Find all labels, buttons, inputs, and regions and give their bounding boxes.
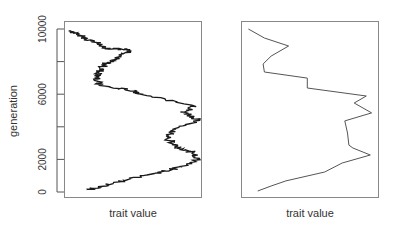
left-panel: 02000600010000 generation trait value	[7, 15, 202, 219]
left-trajectory-line	[69, 31, 200, 190]
left-y-axis: 02000600010000	[37, 15, 64, 195]
right-trajectory-line	[248, 29, 371, 191]
y-tick-label: 6000	[37, 83, 48, 106]
y-tick-label: 10000	[37, 15, 48, 43]
left-y-axis-label: generation	[7, 85, 19, 137]
left-plot-frame	[65, 22, 202, 198]
right-panel: trait value	[242, 22, 379, 220]
right-x-axis-label: trait value	[286, 207, 334, 219]
right-plot-frame	[242, 22, 379, 198]
figure: 02000600010000 generation trait value tr…	[0, 0, 398, 227]
y-tick-label: 0	[37, 189, 48, 195]
y-tick-label: 2000	[37, 148, 48, 171]
left-x-axis-label: trait value	[109, 207, 157, 219]
